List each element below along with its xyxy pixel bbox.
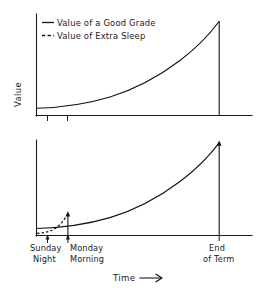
x-axis-title-group: Time — [112, 273, 162, 283]
legend-label-good-grade: Value of a Good Grade — [57, 18, 156, 28]
x-axis-label: Time — [112, 273, 135, 283]
x-tick-label-sunday-line2: Night — [33, 254, 56, 264]
lower-panel — [36, 140, 252, 241]
lower-panel-curve-extra-sleep — [37, 214, 68, 234]
x-tick-label-sunday-line1: Sunday — [30, 243, 62, 253]
y-axis-label: Value — [13, 82, 23, 107]
lower-panel-extra-sleep-peak-arrow-icon — [66, 211, 71, 216]
x-tick-label-end-line1: End — [209, 243, 225, 253]
x-axis-tick-labels: Sunday Night Monday Morning End of Term — [30, 243, 234, 264]
lower-panel-peak-arrow-icon — [217, 140, 222, 145]
x-tick-label-monday-line2: Morning — [70, 254, 104, 264]
figure-container: Value of a Good Grade Value of Extra Sle… — [0, 0, 257, 290]
legend-label-extra-sleep: Value of Extra Sleep — [57, 31, 145, 41]
lower-panel-curve-good-grade — [37, 143, 219, 229]
legend: Value of a Good Grade Value of Extra Sle… — [42, 18, 156, 41]
x-tick-label-monday-line1: Monday — [70, 243, 103, 253]
x-tick-label-end-line2: of Term — [203, 254, 234, 264]
chart-svg: Value of a Good Grade Value of Extra Sle… — [0, 0, 257, 290]
